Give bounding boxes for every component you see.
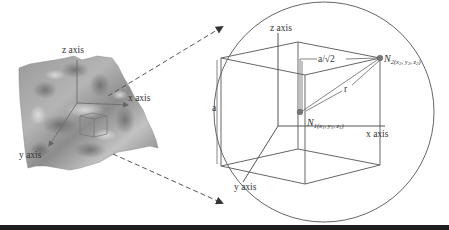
right-z-axis-label: z axis [270, 23, 292, 33]
right-y-axis-label: y axis [234, 182, 257, 192]
left-y-axis-label: y axis [19, 150, 42, 160]
node-n1-label: N1(x1, y1, z1) [306, 117, 344, 130]
node-n2-point [377, 55, 383, 61]
left-z-axis-label: z axis [62, 45, 84, 55]
radius-label: r [344, 84, 348, 94]
connector-arrow-bottom [113, 154, 222, 203]
bottom-rule [0, 225, 449, 230]
half-diagonal-label: a/√2 [318, 54, 335, 64]
radius-lines [301, 58, 380, 112]
n2-coords: 2(x2, y2, z2) [391, 58, 421, 66]
half-diagonal-marker [300, 58, 378, 110]
connector-arrow-top [108, 27, 222, 96]
left-x-axis-label: x axis [128, 93, 151, 103]
right-y-axis-line [243, 126, 278, 182]
n1-coords: 1(x1, y1, z1) [314, 122, 344, 130]
node-n2-label: N2(x2, y2, z2) [383, 53, 421, 66]
right-axes [243, 33, 385, 182]
node-n1-point [297, 109, 303, 115]
right-x-axis-label: x axis [366, 129, 389, 139]
edge-length-label: a [212, 103, 217, 113]
diagram-canvas: z axis x axis y axis [0, 0, 449, 230]
